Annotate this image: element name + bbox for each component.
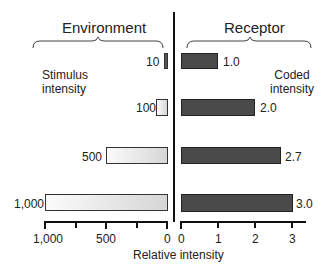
receptor-bar-1	[181, 53, 218, 69]
receptor-value-4: 3.0	[296, 197, 313, 211]
environment-bar-10	[164, 53, 168, 69]
stimulus-label-10: 10	[146, 55, 159, 69]
receptor-brace	[187, 37, 311, 48]
receptor-value-1: 1.0	[223, 55, 240, 69]
coded-intensity-label: Coded intensity	[270, 68, 314, 96]
x-axis-label: Relative intensity	[133, 248, 224, 262]
environment-bar-500	[106, 147, 168, 164]
right-tick-0: 0	[178, 232, 185, 246]
receptor-bar-3	[181, 147, 281, 164]
left-tick-500: 500	[96, 232, 116, 246]
receptor-value-3: 2.7	[285, 150, 302, 164]
stimulus-label-100: 100	[136, 101, 156, 115]
environment-bar-100	[156, 99, 168, 116]
stimulus-label-500: 500	[82, 150, 102, 164]
left-tick-1000: 1,000	[33, 232, 63, 246]
stimulus-label-1000: 1,000	[14, 197, 44, 211]
stimulus-intensity-label: Stimulus intensity	[42, 68, 88, 96]
right-tick-2: 2	[252, 232, 259, 246]
environment-bar-1000	[45, 194, 168, 211]
chart-lines	[0, 0, 322, 265]
right-tick-1: 1	[215, 232, 222, 246]
receptor-bar-2	[181, 99, 255, 116]
left-tick-0: 0	[164, 232, 171, 246]
right-tick-3: 3	[289, 232, 296, 246]
environment-brace	[33, 37, 163, 48]
receptor-value-2: 2.0	[260, 101, 277, 115]
receptor-bar-4	[181, 194, 293, 212]
